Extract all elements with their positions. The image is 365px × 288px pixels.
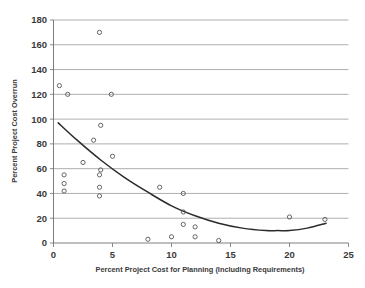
x-tick-label-10: 10	[166, 249, 177, 260]
data-point	[193, 235, 197, 239]
data-point	[217, 238, 221, 242]
data-point	[193, 225, 197, 229]
y-tick-label-160: 160	[31, 39, 47, 50]
data-points-group	[57, 30, 327, 242]
scatter-plot: 020406080100120140160180 0510152025 Perc…	[0, 0, 365, 288]
data-point	[97, 185, 101, 189]
y-tick-label-80: 80	[36, 138, 47, 149]
data-point	[110, 154, 114, 158]
chart-container: 020406080100120140160180 0510152025 Perc…	[0, 0, 365, 288]
data-point	[62, 173, 66, 177]
x-tick-label-20: 20	[284, 249, 295, 260]
data-point	[62, 189, 66, 193]
x-tick-label-15: 15	[225, 249, 236, 260]
y-tick-label-0: 0	[42, 237, 47, 248]
tickmarks-group	[50, 20, 349, 247]
y-tick-label-180: 180	[31, 14, 47, 25]
y-tick-label-40: 40	[36, 188, 47, 199]
x-tick-label-0: 0	[51, 249, 56, 260]
data-point	[97, 30, 101, 34]
data-point	[97, 194, 101, 198]
data-point	[158, 185, 162, 189]
y-tick-label-20: 20	[36, 213, 47, 224]
x-tick-label-25: 25	[343, 249, 354, 260]
data-point	[97, 173, 101, 177]
y-tick-label-140: 140	[31, 64, 47, 75]
y-tick-label-60: 60	[36, 163, 47, 174]
data-point	[81, 160, 85, 164]
data-point	[92, 138, 96, 142]
x-axis-title: Percent Project Cost for Planning (Inclu…	[95, 265, 305, 274]
y-tick-label-100: 100	[31, 114, 47, 125]
data-point	[99, 123, 103, 127]
data-point	[57, 84, 61, 88]
data-point	[146, 237, 150, 241]
y-tick-label-120: 120	[31, 89, 47, 100]
y-tick-labels-group: 020406080100120140160180	[31, 14, 47, 248]
axis-frame	[54, 20, 349, 243]
data-point	[169, 235, 173, 239]
x-tick-label-5: 5	[110, 249, 116, 260]
data-point	[181, 222, 185, 226]
data-point	[62, 181, 66, 185]
y-axis-title: Percent Project Cost Overrun	[10, 79, 19, 183]
x-tick-labels-group: 0510152025	[51, 249, 355, 260]
